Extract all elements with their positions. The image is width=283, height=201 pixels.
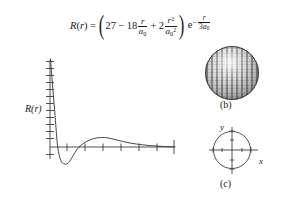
radial-wavefunction-chart	[0, 46, 190, 201]
equation-term2-numerator: r	[140, 17, 146, 26]
equation-term3-denominator: a02	[165, 26, 178, 37]
c-x-axis-label: x	[259, 156, 263, 166]
caption-c: (c)	[220, 178, 231, 189]
y-axis-label: R(r)	[25, 103, 42, 114]
equation-op1: −	[116, 21, 127, 32]
equation-term2-coefficient: 18	[127, 21, 138, 32]
equation-term3-num-sup: 2	[171, 16, 174, 22]
equation-exp-fraction: r 3a0	[198, 14, 210, 31]
circle-axes-diagram	[196, 120, 276, 178]
equation-term3-coefficient: 2	[159, 21, 164, 32]
equation-exp-den-sub: 0	[207, 25, 210, 31]
caption-b: (b)	[220, 99, 232, 110]
equation-exp-denominator: 3a0	[198, 22, 210, 32]
equation-equals: =	[88, 21, 99, 32]
equation-exp-exponent: − r 3a0	[193, 14, 211, 31]
equation-term2-fraction: r a0	[138, 17, 148, 37]
equation-term1: 27	[105, 21, 116, 32]
equation-open-paren: (	[99, 15, 105, 36]
radial-wavefunction-curve	[51, 59, 176, 164]
equation-close-paren: )	[178, 15, 184, 36]
figure-root: R(r) = ( 27 − 18 r a0 + 2 r2 a02 ) e − r…	[0, 0, 283, 201]
equation-radial-wavefunction: R(r) = ( 27 − 18 r a0 + 2 r2 a02 ) e − r…	[70, 8, 250, 44]
panel-b-orbital-sphere: (b)	[196, 44, 276, 120]
panel-c-nodal-diagram: y x (c)	[196, 120, 276, 200]
equation-term2-denominator: a0	[138, 26, 148, 37]
equation-op2: +	[148, 21, 159, 32]
panel-a-radial-plot: R(r) r (a)	[0, 46, 190, 201]
equation-term3-den-sup: 2	[173, 27, 176, 33]
sphere-outline	[205, 46, 259, 100]
equation-exp-base: e	[188, 20, 193, 31]
equation-term3-numerator: r2	[167, 16, 175, 26]
equation-term3-fraction: r2 a02	[165, 16, 178, 37]
c-y-axis-label: y	[220, 122, 224, 132]
equation-term2-den-sub: 0	[143, 30, 146, 36]
equation-exp-numerator: r	[202, 14, 207, 22]
equation-exponential: e − r 3a0	[188, 17, 211, 34]
equation-exp-minus: −	[193, 19, 198, 27]
